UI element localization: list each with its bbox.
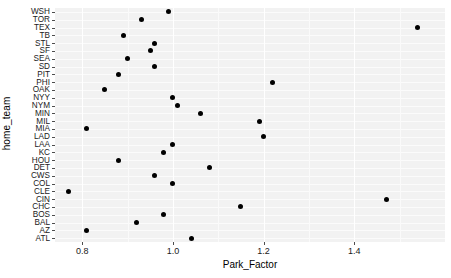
gridline-horizontal: [55, 168, 445, 169]
x-tick-label-0.8: 0.8: [76, 246, 89, 256]
data-point: [189, 236, 194, 241]
data-point: [384, 197, 389, 202]
data-point: [116, 158, 121, 163]
gridline-horizontal: [55, 20, 445, 21]
gridline-horizontal: [55, 137, 445, 138]
gridline-horizontal: [55, 113, 445, 114]
gridline-horizontal: [55, 184, 445, 185]
gridline-horizontal: [55, 74, 445, 75]
data-point: [152, 41, 157, 46]
data-point: [261, 134, 266, 139]
gridline-vertical-major: [173, 8, 174, 242]
x-tick-label-1.0: 1.0: [167, 246, 180, 256]
data-point: [175, 103, 180, 108]
data-point: [170, 142, 175, 147]
data-point: [148, 48, 153, 53]
gridline-horizontal: [55, 207, 445, 208]
y-axis-title: home_team: [0, 0, 14, 246]
gridline-horizontal: [55, 129, 445, 130]
x-tick-label-1.2: 1.2: [257, 246, 270, 256]
gridline-vertical-minor: [400, 8, 401, 242]
gridline-vertical-minor: [309, 8, 310, 242]
y-axis-tick-labels: WSHTORTEXTBSTLSFSEASDPITPHIOAKNYYNYMMINM…: [14, 8, 55, 242]
gridline-horizontal: [55, 43, 445, 44]
gridline-horizontal: [55, 191, 445, 192]
scatter-plot-figure: home_team WSHTORTEXTBSTLSFSEASDPITPHIOAK…: [0, 0, 451, 278]
data-point: [125, 56, 130, 61]
data-point: [415, 25, 420, 30]
plot-panel: [55, 8, 445, 242]
gridline-horizontal: [55, 176, 445, 177]
gridline-vertical-minor: [128, 8, 129, 242]
gridline-horizontal: [55, 230, 445, 231]
x-tick-mark: [354, 242, 355, 245]
data-point: [198, 111, 203, 116]
gridline-horizontal: [55, 160, 445, 161]
gridline-vertical-major: [354, 8, 355, 242]
gridline-horizontal: [55, 82, 445, 83]
data-point: [170, 181, 175, 186]
gridline-horizontal: [55, 28, 445, 29]
gridline-horizontal: [55, 98, 445, 99]
gridline-horizontal: [55, 51, 445, 52]
data-point: [270, 80, 275, 85]
gridline-horizontal: [55, 145, 445, 146]
x-tick-mark: [173, 242, 174, 245]
data-point: [161, 212, 166, 217]
data-point: [238, 204, 243, 209]
y-axis-title-label: home_team: [2, 96, 13, 150]
data-point: [116, 72, 121, 77]
data-point: [102, 87, 107, 92]
gridline-horizontal: [55, 67, 445, 68]
x-tick-label-1.4: 1.4: [348, 246, 361, 256]
data-point: [139, 17, 144, 22]
gridline-horizontal: [55, 121, 445, 122]
data-point: [84, 228, 89, 233]
gridline-vertical-major: [264, 8, 265, 242]
data-point: [257, 119, 262, 124]
gridline-horizontal: [55, 238, 445, 239]
data-point: [134, 220, 139, 225]
data-point: [152, 173, 157, 178]
gridline-horizontal: [55, 215, 445, 216]
gridline-vertical-major: [82, 8, 83, 242]
x-tick-mark: [264, 242, 265, 245]
gridline-horizontal: [55, 35, 445, 36]
y-tick-label-atl: ATL: [36, 234, 50, 243]
data-point: [121, 33, 126, 38]
data-point: [152, 64, 157, 69]
data-point: [166, 9, 171, 14]
data-point: [161, 150, 166, 155]
gridline-horizontal: [55, 152, 445, 153]
data-point: [66, 189, 71, 194]
data-point: [170, 95, 175, 100]
gridline-horizontal: [55, 12, 445, 13]
x-axis-ticks: 0.81.01.21.4: [55, 242, 445, 260]
gridline-horizontal: [55, 223, 445, 224]
gridline-horizontal: [55, 90, 445, 91]
x-axis-title: Park_Factor: [55, 259, 445, 270]
gridline-vertical-minor: [218, 8, 219, 242]
x-tick-mark: [82, 242, 83, 245]
data-point: [207, 165, 212, 170]
gridline-horizontal: [55, 59, 445, 60]
gridline-horizontal: [55, 106, 445, 107]
data-point: [84, 126, 89, 131]
